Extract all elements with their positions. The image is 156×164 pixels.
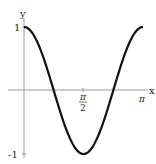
y-axis-label: y [19, 8, 26, 19]
y-tick-label-1: 1 [14, 22, 20, 33]
function-plot: y x 1 -1 π 2 π [0, 0, 156, 164]
x-tick-label-pi-half-den: 2 [80, 103, 86, 113]
x-axis-label: x [149, 85, 155, 96]
y-tick-label-neg1: -1 [8, 149, 18, 160]
x-tick-label-pi: π [138, 94, 146, 104]
axes [8, 18, 148, 158]
x-tick-label-pi-half-num: π [79, 92, 87, 102]
